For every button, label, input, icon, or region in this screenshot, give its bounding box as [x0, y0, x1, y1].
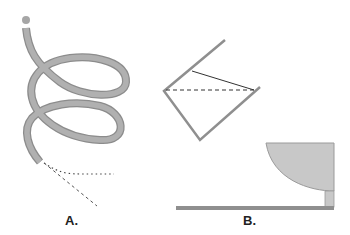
dashed-trajectory: [44, 163, 97, 206]
panel-label-b: B.: [243, 213, 256, 228]
base-platform: [176, 206, 334, 210]
dotted-trajectory: [44, 163, 114, 174]
bowl-pedestal: [325, 191, 334, 207]
bowl: [266, 143, 334, 191]
panel-b-bowl: [176, 143, 334, 210]
diagram-canvas: [0, 0, 350, 235]
panel-b-container: [164, 40, 260, 140]
panel-label-a: A.: [65, 213, 78, 228]
panel-a-coil: [22, 16, 126, 206]
liquid-surface-line: [192, 71, 254, 90]
ball-icon: [22, 16, 30, 24]
